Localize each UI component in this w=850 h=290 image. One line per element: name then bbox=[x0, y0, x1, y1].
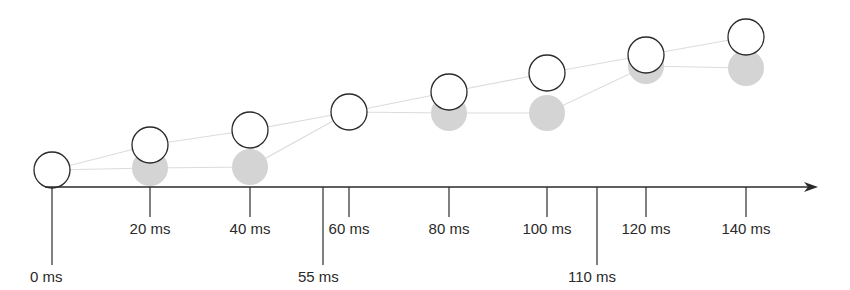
time-axis bbox=[45, 182, 818, 192]
white-circle bbox=[529, 55, 565, 91]
tick-label: 40 ms bbox=[230, 220, 271, 237]
tick-label: 0 ms bbox=[30, 268, 63, 285]
gray-circle bbox=[232, 149, 268, 185]
white-circle bbox=[728, 19, 764, 55]
white-circle bbox=[431, 74, 467, 110]
white-circle bbox=[132, 127, 168, 163]
white-circle bbox=[34, 152, 70, 188]
tick-label: 60 ms bbox=[329, 220, 370, 237]
tick-label: 110 ms bbox=[568, 268, 616, 285]
white-circle bbox=[628, 37, 664, 73]
tick-label: 55 ms bbox=[298, 268, 339, 285]
timing-diagram: 0 ms20 ms40 ms55 ms60 ms80 ms100 ms110 m… bbox=[0, 0, 850, 290]
white-circle bbox=[232, 112, 268, 148]
tick-label: 80 ms bbox=[429, 220, 470, 237]
tick-label: 100 ms bbox=[522, 220, 571, 237]
tick-label: 120 ms bbox=[621, 220, 670, 237]
white-circle bbox=[331, 94, 367, 130]
tick-label: 140 ms bbox=[721, 220, 770, 237]
tick-label: 20 ms bbox=[130, 220, 171, 237]
gray-circle bbox=[529, 95, 565, 131]
time-ticks: 0 ms20 ms40 ms55 ms60 ms80 ms100 ms110 m… bbox=[30, 187, 771, 285]
